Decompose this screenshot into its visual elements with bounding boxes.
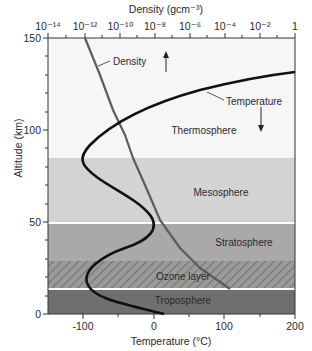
svg-text:0: 0 — [151, 320, 157, 332]
label-troposphere: Troposphere — [155, 295, 212, 306]
svg-text:-100: -100 — [72, 320, 93, 332]
svg-text:150: 150 — [23, 32, 41, 44]
temperature-label: Temperature — [226, 96, 283, 107]
svg-text:10⁻⁶: 10⁻⁶ — [179, 20, 201, 32]
bottom-axis-labels: -100 0 100 200 — [72, 320, 303, 332]
svg-text:10⁻⁸: 10⁻⁸ — [144, 20, 166, 32]
top-axis-title: Density (gcm⁻³) — [129, 3, 203, 15]
atmosphere-chart: Density (gcm⁻³) 10⁻¹⁴ 10⁻¹² 10⁻¹⁰ 10⁻⁸ 1… — [0, 0, 312, 351]
svg-text:10⁻¹⁰: 10⁻¹⁰ — [107, 20, 133, 32]
svg-text:0: 0 — [35, 308, 41, 320]
bottom-axis-ticks — [83, 314, 295, 319]
svg-text:10⁻¹⁴: 10⁻¹⁴ — [35, 20, 61, 32]
svg-text:100: 100 — [23, 124, 41, 136]
svg-text:100: 100 — [215, 320, 233, 332]
label-stratosphere: Stratosphere — [215, 237, 273, 248]
svg-text:200: 200 — [286, 320, 304, 332]
left-axis-labels: 0 50 100 150 — [23, 32, 41, 320]
svg-text:10⁻²: 10⁻² — [249, 20, 271, 32]
top-axis-labels: Density (gcm⁻³) 10⁻¹⁴ 10⁻¹² 10⁻¹⁰ 10⁻⁸ 1… — [35, 3, 298, 32]
svg-text:50: 50 — [29, 216, 41, 228]
top-axis-ticks — [48, 33, 295, 38]
y-axis-title: Altitude (km) — [12, 119, 24, 178]
svg-text:10⁻¹²: 10⁻¹² — [73, 20, 98, 32]
density-label: Density — [113, 56, 146, 67]
label-thermosphere: Thermosphere — [171, 125, 236, 136]
x-axis-title: Temperature (°C) — [131, 335, 212, 347]
left-axis-ticks — [43, 38, 48, 314]
label-ozone: Ozone layer — [156, 271, 211, 282]
svg-text:10⁻⁴: 10⁻⁴ — [214, 20, 236, 32]
svg-text:1: 1 — [292, 20, 298, 32]
label-mesosphere: Mesosphere — [193, 187, 248, 198]
